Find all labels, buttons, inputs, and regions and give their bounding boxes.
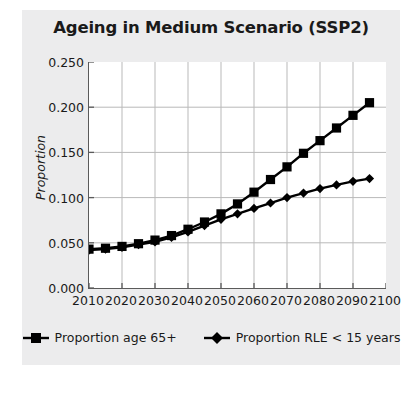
data-point-diamond (299, 188, 308, 197)
series-line (89, 103, 370, 249)
data-point-square (332, 123, 341, 132)
data-point-diamond (365, 174, 374, 183)
legend-square-marker-icon (22, 331, 50, 345)
data-point-diamond (348, 177, 357, 186)
legend-entry[interactable]: Proportion RLE < 15 years (203, 330, 401, 345)
data-point-diamond (266, 198, 275, 207)
data-point-square (266, 175, 275, 184)
chart-title: Ageing in Medium Scenario (SSP2) (22, 18, 400, 37)
data-point-square (233, 199, 242, 208)
data-point-diamond (315, 184, 324, 193)
legend-label: Proportion age 65+ (55, 330, 177, 345)
legend-entry[interactable]: Proportion age 65+ (22, 330, 177, 345)
y-tick-label: 0.200 (38, 100, 84, 115)
legend-label: Proportion RLE < 15 years (236, 330, 401, 345)
data-point-diamond (332, 180, 341, 189)
x-tick-label: 2100 (365, 293, 405, 308)
data-point-diamond (233, 209, 242, 218)
series-1 (89, 98, 374, 254)
chart-legend: Proportion age 65+Proportion RLE < 15 ye… (22, 330, 400, 345)
data-point-square (365, 98, 374, 107)
y-axis-tick-labels: 0.0000.0500.1000.1500.2000.250 (34, 62, 84, 288)
series-line (89, 179, 370, 250)
data-point-square (348, 111, 357, 120)
y-tick-label: 0.250 (38, 55, 84, 70)
y-tick-label: 0.150 (38, 145, 84, 160)
chart-figure: Ageing in Medium Scenario (SSP2) Proport… (22, 10, 400, 365)
data-point-square (315, 136, 324, 145)
data-point-square (299, 149, 308, 158)
y-tick-label: 0.100 (38, 190, 84, 205)
data-point-square (282, 162, 291, 171)
data-point-square (249, 188, 258, 197)
plot-area (88, 62, 386, 289)
plot-svg (89, 62, 386, 288)
x-axis-tick-labels: 2010202020302040205020602070208020902100 (88, 293, 385, 313)
data-point-diamond (249, 204, 258, 213)
data-point-diamond (282, 193, 291, 202)
y-tick-label: 0.050 (38, 235, 84, 250)
legend-diamond-marker-icon (203, 331, 231, 345)
